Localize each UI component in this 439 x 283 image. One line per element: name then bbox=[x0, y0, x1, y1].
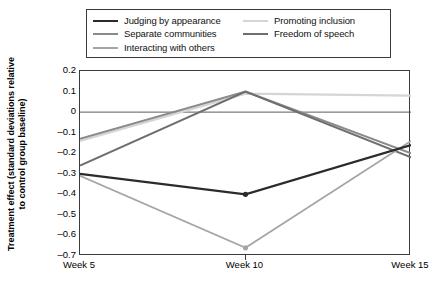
legend-line-swatch-freedom-of-speech bbox=[243, 33, 268, 35]
legend-label-judging-by-appearance: Judging by appearance bbox=[124, 16, 221, 26]
y-axis-title-container: Treatment effect (standard deviations re… bbox=[0, 60, 34, 260]
legend-label-interacting-with-others: Interacting with others bbox=[124, 43, 215, 53]
y-tick-label: –0.4 bbox=[46, 188, 76, 198]
plot-area bbox=[79, 70, 410, 255]
legend-label-separate-communities: Separate communities bbox=[124, 29, 217, 39]
legend-label-freedom-of-speech: Freedom of speech bbox=[274, 29, 354, 39]
y-tick-label: –0.3 bbox=[46, 168, 76, 178]
legend-item-promoting-inclusion: Promoting inclusion bbox=[243, 14, 355, 28]
legend-line-swatch-separate-communities bbox=[93, 33, 118, 35]
series-line-judging-by-appearance bbox=[80, 145, 411, 194]
x-tick-label: Week 15 bbox=[375, 259, 439, 270]
y-tick-label: –0.1 bbox=[46, 127, 76, 137]
y-axis-tick-labels: 0.20.10–0.1–0.2–0.3–0.4–0.5–0.6–0.7 bbox=[44, 70, 76, 255]
legend-label-promoting-inclusion: Promoting inclusion bbox=[274, 16, 355, 26]
y-axis-title: Treatment effect (standard deviations re… bbox=[6, 54, 28, 254]
y-tick-label: 0.1 bbox=[46, 86, 76, 96]
legend-column-right: Promoting inclusion Freedom of speech bbox=[243, 14, 355, 41]
chart-lines-svg bbox=[80, 71, 411, 256]
chart-container: Judging by appearance Separate communiti… bbox=[0, 0, 439, 283]
y-tick-label: 0 bbox=[46, 106, 76, 116]
legend-column-left: Judging by appearance Separate communiti… bbox=[93, 14, 221, 55]
legend-item-separate-communities: Separate communities bbox=[93, 28, 221, 42]
legend-line-swatch-judging-by-appearance bbox=[93, 20, 118, 22]
legend-item-judging-by-appearance: Judging by appearance bbox=[93, 14, 221, 28]
data-point-marker bbox=[243, 245, 248, 250]
y-tick-label: –0.5 bbox=[46, 209, 76, 219]
series-line-freedom-of-speech bbox=[80, 92, 411, 166]
x-tick-mark bbox=[245, 255, 246, 260]
y-tick-label: –0.6 bbox=[46, 229, 76, 239]
y-tick-label: 0.2 bbox=[46, 65, 76, 75]
data-point-marker bbox=[243, 192, 248, 197]
legend-item-interacting-with-others: Interacting with others bbox=[93, 41, 221, 55]
x-tick-label: Week 5 bbox=[44, 259, 114, 270]
legend-line-swatch-interacting-with-others bbox=[93, 47, 118, 49]
y-tick-label: –0.2 bbox=[46, 147, 76, 157]
legend-item-freedom-of-speech: Freedom of speech bbox=[243, 28, 355, 42]
chart-legend: Judging by appearance Separate communiti… bbox=[86, 9, 391, 58]
legend-line-swatch-promoting-inclusion bbox=[243, 20, 268, 22]
x-tick-label: Week 10 bbox=[210, 259, 280, 270]
